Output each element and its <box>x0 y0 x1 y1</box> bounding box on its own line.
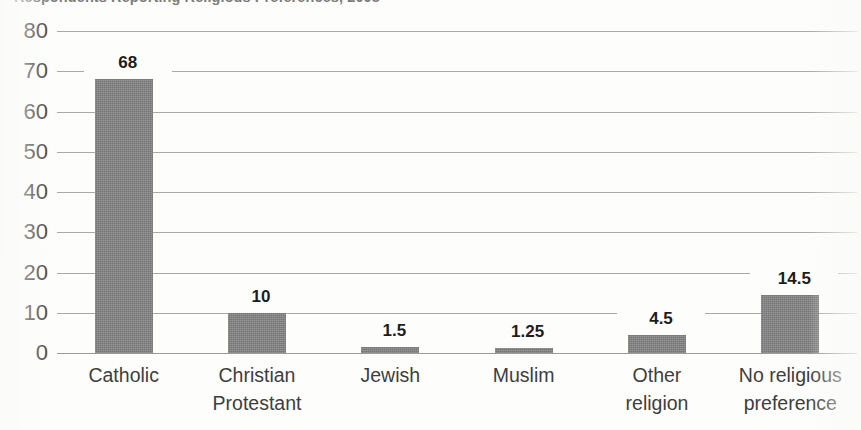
gridline <box>57 313 857 314</box>
gridline <box>57 71 857 72</box>
bar[interactable] <box>495 348 553 353</box>
y-tick-label: 20 <box>4 262 48 284</box>
bar[interactable] <box>628 335 686 353</box>
y-tick-label: 40 <box>4 181 48 203</box>
bar-value-label: 14.5 <box>750 270 838 288</box>
y-tick-label: 10 <box>4 302 48 324</box>
x-tick-label: Other religion <box>590 362 723 417</box>
gridline <box>57 232 857 233</box>
x-tick-label: Jewish <box>324 362 457 390</box>
y-tick-label: 80 <box>4 20 48 42</box>
gridline <box>57 31 857 32</box>
plot-area: 68101.51.254.514.5 <box>57 31 857 353</box>
gridline <box>57 192 857 193</box>
gridline <box>57 273 857 274</box>
y-axis: 80706050403020100 <box>0 31 48 353</box>
bar[interactable] <box>228 313 286 353</box>
bar-value-label: 1.25 <box>484 323 572 341</box>
bar-value-label: 1.5 <box>350 322 438 340</box>
y-tick-label: 50 <box>4 141 48 163</box>
bar-value-label: 68 <box>84 54 172 72</box>
axis-baseline <box>57 353 857 354</box>
bar-value-label: 10 <box>217 288 305 306</box>
bar-value-label: 4.5 <box>617 310 705 328</box>
y-tick-label: 70 <box>4 60 48 82</box>
y-tick-label: 30 <box>4 221 48 243</box>
x-axis: CatholicChristian ProtestantJewishMuslim… <box>57 362 857 428</box>
y-tick-label: 0 <box>4 342 48 364</box>
x-tick-label: Catholic <box>57 362 190 390</box>
bar[interactable] <box>361 347 419 353</box>
bar-chart-figure: Respondents Reporting Religious Preferen… <box>0 0 861 430</box>
x-tick-label: No religious preference <box>724 362 857 417</box>
x-tick-label: Christian Protestant <box>190 362 323 417</box>
bar[interactable] <box>761 295 819 353</box>
bar[interactable] <box>95 79 153 353</box>
gridline <box>57 112 857 113</box>
gridline <box>57 152 857 153</box>
y-tick-label: 60 <box>4 101 48 123</box>
chart-title: Respondents Reporting Religious Preferen… <box>14 0 574 9</box>
x-tick-label: Muslim <box>457 362 590 390</box>
